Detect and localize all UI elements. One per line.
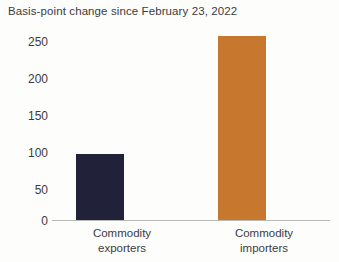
- y-axis-tick-0: 0: [4, 215, 48, 227]
- plot-area: [52, 30, 330, 221]
- y-axis-tick-50: 50: [4, 184, 48, 196]
- y-axis-tick-100: 100: [4, 147, 48, 159]
- y-axis-tick-250: 250: [4, 36, 48, 48]
- x-axis-label-line-1: Commodity: [57, 226, 187, 241]
- x-axis-label-line-2: importers: [199, 241, 329, 256]
- x-axis-label-line-1: Commodity: [199, 226, 329, 241]
- bar-commodity-importers: [218, 36, 266, 221]
- y-axis-tick-150: 150: [4, 110, 48, 122]
- x-axis-label-commodity-importers: Commodity importers: [199, 226, 329, 256]
- bar-chart-figure: Basis-point change since February 23, 20…: [0, 0, 339, 262]
- x-axis-label-commodity-exporters: Commodity exporters: [57, 226, 187, 256]
- x-axis-label-line-2: exporters: [57, 241, 187, 256]
- y-axis-tick-labels: 250 200 150 100 50 0: [0, 0, 48, 262]
- x-axis-baseline: [52, 220, 330, 221]
- y-axis-tick-200: 200: [4, 73, 48, 85]
- bar-commodity-exporters: [76, 154, 124, 221]
